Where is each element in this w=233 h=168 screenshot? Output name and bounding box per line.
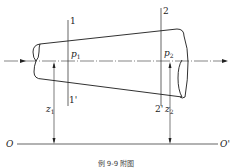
- z1-label: z1: [45, 104, 55, 115]
- z1-arrow-down-icon: [53, 138, 56, 144]
- datum-left-label: O: [6, 139, 14, 149]
- figure-caption: 例 9-9 附图: [98, 159, 135, 168]
- section-2-top-label: 2: [163, 6, 169, 16]
- z1-arrow-up-icon: [53, 62, 56, 68]
- p1-label: p1: [71, 49, 81, 60]
- z2-arrow-down-icon: [169, 138, 172, 144]
- z2-label: z2: [164, 104, 174, 115]
- pipe-diagram: 1 1' p1 2 2' p2 z1 z2 O O' 例 9-9 附图: [0, 0, 233, 168]
- z2-arrow-up-icon: [169, 62, 172, 68]
- section-1-top-label: 1: [70, 16, 76, 26]
- section-2-bottom-label: 2': [155, 104, 163, 114]
- pipe-outline: [33, 29, 188, 98]
- datum-right-label: O': [220, 139, 230, 149]
- section-1-bottom-label: 1': [69, 95, 77, 105]
- p2-label: p2: [164, 48, 174, 59]
- flow-arrow-in-icon: [20, 59, 26, 63]
- flow-arrow-out-icon: [222, 59, 228, 63]
